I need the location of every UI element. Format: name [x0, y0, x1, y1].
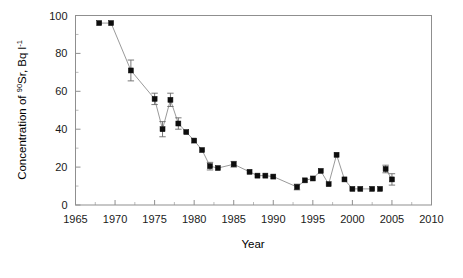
data-point-marker — [318, 168, 323, 173]
x-tick-label-1980: 1980 — [182, 213, 206, 225]
x-axis-title: Year — [241, 238, 264, 250]
data-point-marker — [128, 68, 133, 73]
x-tick-label-1990: 1990 — [261, 213, 285, 225]
x-tick-label-1995: 1995 — [301, 213, 325, 225]
data-point-marker — [152, 96, 157, 101]
data-point-marker — [271, 174, 276, 179]
data-point-marker — [350, 186, 355, 191]
sr90-concentration-chart: 1965197019751980198519901995200020052010… — [0, 0, 463, 278]
data-point-marker — [192, 138, 197, 143]
data-point-marker — [168, 97, 173, 102]
data-point-marker — [215, 166, 220, 171]
y-axis-title-superscript-90: 90 — [15, 84, 24, 92]
data-point-marker — [326, 182, 331, 187]
data-series-line — [99, 23, 392, 189]
x-tick-label-2005: 2005 — [380, 213, 404, 225]
error-bars-group — [128, 60, 395, 190]
series-segment — [329, 155, 337, 184]
data-point-marker — [184, 130, 189, 135]
data-point-marker — [176, 121, 181, 126]
data-point-marker — [263, 173, 268, 178]
series-segment — [131, 70, 155, 98]
data-point-marker — [109, 21, 114, 26]
series-segment — [273, 177, 297, 187]
x-tick-label-2010: 2010 — [419, 213, 443, 225]
x-axis-tick-labels: 1965197019751980198519901995200020052010 — [63, 213, 443, 225]
data-point-marker — [389, 177, 394, 182]
y-axis-title-mid: Sr, Bq l — [16, 47, 28, 84]
data-point-marker — [247, 169, 252, 174]
y-axis-tick-labels: 020406080100 — [49, 10, 67, 212]
y-tick-label-20: 20 — [55, 161, 67, 173]
data-point-marker — [200, 148, 205, 153]
figure-container: 1965197019751980198519901995200020052010… — [0, 0, 463, 278]
y-tick-label-60: 60 — [55, 85, 67, 97]
y-axis-title: Concentration of 90Sr, Bq l-1 — [15, 40, 28, 180]
y-axis-title-main: Concentration of — [16, 92, 28, 180]
plot-frame — [76, 16, 432, 206]
y-tick-label-80: 80 — [55, 47, 67, 59]
data-point-marker — [383, 166, 388, 171]
series-segment — [163, 100, 171, 129]
x-tick-label-2000: 2000 — [340, 213, 364, 225]
x-tick-label-1985: 1985 — [221, 213, 245, 225]
data-point-marker — [160, 127, 165, 132]
x-tick-label-1965: 1965 — [63, 213, 87, 225]
x-tick-label-1975: 1975 — [142, 213, 166, 225]
data-point-marker — [295, 184, 300, 189]
data-markers-group — [97, 21, 395, 192]
y-axis-title-superscript-minus1: -1 — [15, 40, 24, 47]
data-point-marker — [231, 162, 236, 167]
series-segment — [155, 99, 163, 129]
data-point-marker — [342, 177, 347, 182]
series-segment — [111, 23, 131, 70]
series-segment — [337, 155, 345, 180]
data-point-marker — [207, 164, 212, 169]
y-tick-label-100: 100 — [49, 10, 67, 22]
data-point-marker — [255, 173, 260, 178]
svg-text:Concentration of 90Sr, Bq l-1: Concentration of 90Sr, Bq l-1 — [15, 40, 28, 180]
y-tick-label-40: 40 — [55, 123, 67, 135]
data-point-marker — [370, 186, 375, 191]
data-point-marker — [310, 176, 315, 181]
series-segment — [170, 100, 178, 124]
x-tick-label-1970: 1970 — [103, 213, 127, 225]
data-point-marker — [378, 186, 383, 191]
y-tick-label-0: 0 — [61, 199, 67, 211]
data-point-marker — [358, 186, 363, 191]
data-point-marker — [97, 21, 102, 26]
data-point-marker — [334, 152, 339, 157]
data-point-marker — [302, 178, 307, 183]
